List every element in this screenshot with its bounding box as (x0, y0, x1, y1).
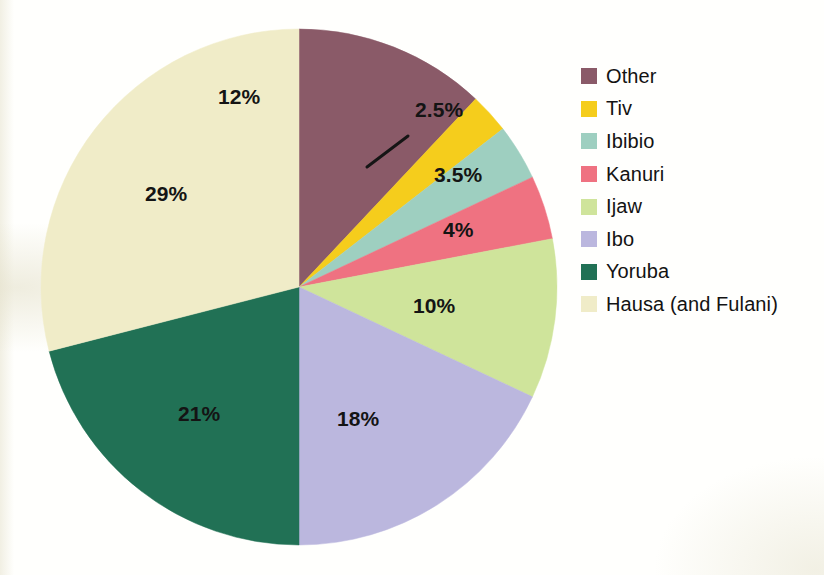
slice-label-ibibio: 3.5% (434, 163, 482, 187)
legend-item[interactable]: Kanuri (581, 158, 821, 191)
legend-item[interactable]: Yoruba (581, 256, 821, 289)
slice-label-hausa: 29% (145, 182, 187, 206)
legend-item[interactable]: Tiv (581, 93, 821, 126)
pie-chart: 12% 2.5% 3.5% 4% 10% 18% 21% 29% (34, 22, 564, 552)
legend-item-label: Hausa (and Fulani) (606, 293, 778, 316)
legend-swatch-icon (581, 68, 597, 84)
legend-item-label: Ibibio (606, 130, 654, 153)
legend-item-label: Ijaw (606, 195, 642, 218)
legend-swatch-icon (581, 133, 597, 149)
slice-label-other: 12% (218, 85, 260, 109)
pie-svg (34, 22, 564, 552)
legend-item[interactable]: Hausa (and Fulani) (581, 288, 821, 321)
legend-item[interactable]: Ibibio (581, 125, 821, 158)
legend-swatch-icon (581, 199, 597, 215)
pie-slices (41, 29, 557, 545)
legend-swatch-icon (581, 101, 597, 117)
legend-item-label: Other (606, 65, 657, 88)
legend-swatch-icon (581, 264, 597, 280)
legend-item-label: Ibo (606, 228, 634, 251)
slice-label-ijaw: 10% (413, 294, 455, 318)
slice-label-kanuri: 4% (443, 218, 474, 242)
legend-item-label: Tiv (606, 97, 632, 120)
legend-swatch-icon (581, 231, 597, 247)
legend-item-label: Yoruba (606, 260, 669, 283)
slice-label-yoruba: 21% (178, 402, 220, 426)
legend-swatch-icon (581, 296, 597, 312)
slice-label-ibo: 18% (337, 407, 379, 431)
legend-item-label: Kanuri (606, 163, 664, 186)
chart-legend: OtherTivIbibioKanuriIjawIboYorubaHausa (… (581, 60, 821, 321)
pie-chart-figure: 12% 2.5% 3.5% 4% 10% 18% 21% 29% OtherTi… (0, 0, 824, 575)
legend-item[interactable]: Other (581, 60, 821, 93)
slice-label-tiv: 2.5% (415, 98, 463, 122)
legend-item[interactable]: Ijaw (581, 190, 821, 223)
legend-swatch-icon (581, 166, 597, 182)
legend-item[interactable]: Ibo (581, 223, 821, 256)
